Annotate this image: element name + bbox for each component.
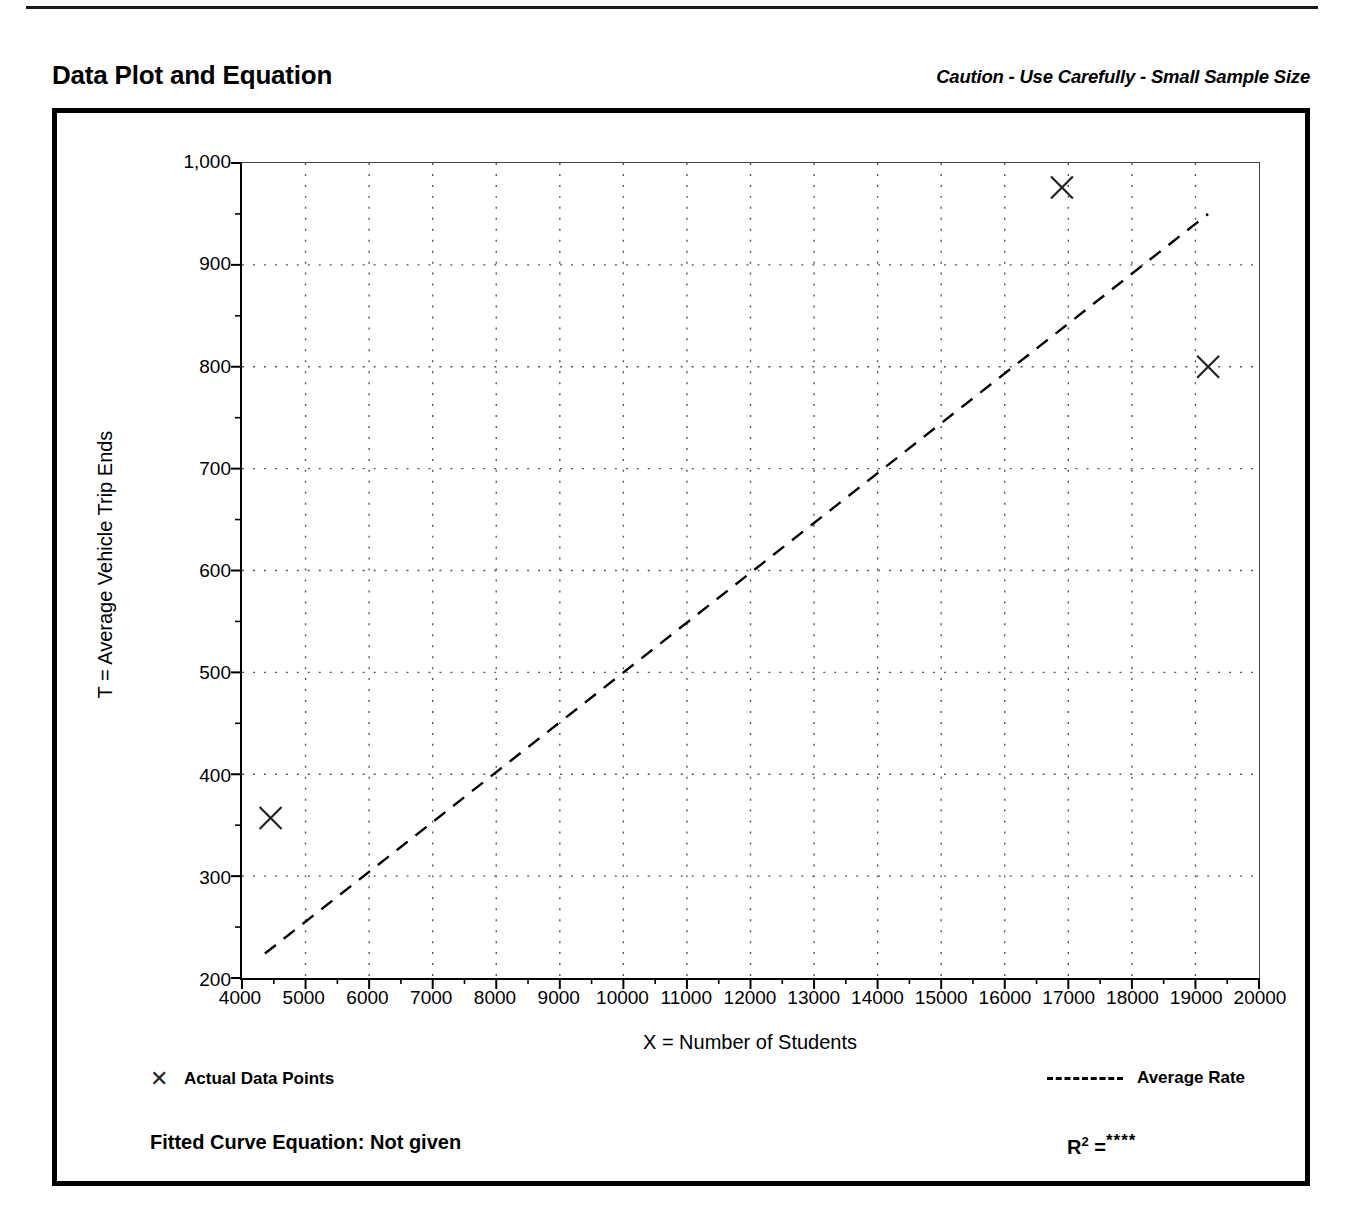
r2-stars: ****: [1106, 1131, 1136, 1150]
average-rate-line: [265, 214, 1208, 954]
x-tick-label: 7000: [410, 987, 452, 1009]
x-tick-label: 8000: [474, 987, 516, 1009]
y-tick-label: 1,000: [183, 151, 231, 173]
r2-prefix: R: [1067, 1136, 1081, 1158]
r2-exponent: 2: [1081, 1134, 1088, 1149]
header-row: Data Plot and Equation Caution - Use Car…: [52, 60, 1310, 100]
y-tick-label: 300: [199, 867, 231, 889]
x-tick-label: 18000: [1106, 987, 1159, 1009]
x-tick-label: 20000: [1234, 987, 1287, 1009]
x-tick-label: 15000: [915, 987, 968, 1009]
caution-note: Caution - Use Carefully - Small Sample S…: [936, 66, 1310, 88]
x-tick-label: 14000: [851, 987, 904, 1009]
fitted-curve-equation: Fitted Curve Equation: Not given: [150, 1131, 461, 1154]
data-layer: [242, 163, 1259, 978]
x-tick-label: 17000: [1042, 987, 1095, 1009]
x-tick-label: 6000: [346, 987, 388, 1009]
y-tick-label: 500: [199, 662, 231, 684]
plot-wrapper: T = Average Vehicle Trip Ends 2003004005…: [57, 113, 1305, 1181]
dashed-line-icon: [1047, 1077, 1123, 1080]
plot-frame: [240, 162, 1260, 980]
data-point-marker: [260, 807, 282, 829]
x-marker-icon: ✕: [150, 1068, 168, 1090]
y-tick-label: 600: [199, 560, 231, 582]
x-tick-label: 4000: [219, 987, 261, 1009]
x-tick-label: 16000: [979, 987, 1032, 1009]
x-tick-label: 9000: [538, 987, 580, 1009]
y-tick-label: 700: [199, 458, 231, 480]
top-divider-rule: [26, 6, 1318, 9]
legend-points-label: Actual Data Points: [184, 1069, 334, 1089]
data-point-marker: [1051, 176, 1073, 198]
chart-panel: T = Average Vehicle Trip Ends 2003004005…: [52, 108, 1310, 1186]
legend-rate-label: Average Rate: [1137, 1068, 1245, 1088]
x-axis-tick-labels: 4000500060007000800090001000011000120001…: [240, 987, 1260, 1017]
legend-average-rate: Average Rate: [1047, 1068, 1245, 1088]
y-tick-label: 800: [199, 356, 231, 378]
y-axis-title: T = Average Vehicle Trip Ends: [94, 265, 117, 865]
r-squared-value: R2 =****: [1067, 1131, 1136, 1159]
x-tick-label: 19000: [1170, 987, 1223, 1009]
x-tick-label: 13000: [787, 987, 840, 1009]
y-tick-label: 900: [199, 253, 231, 275]
y-tick-label: 400: [199, 765, 231, 787]
x-tick-label: 12000: [724, 987, 777, 1009]
x-tick-label: 5000: [283, 987, 325, 1009]
r2-equals: =: [1094, 1136, 1106, 1158]
page-title: Data Plot and Equation: [52, 60, 332, 91]
x-tick-label: 10000: [596, 987, 649, 1009]
x-axis-title: X = Number of Students: [240, 1031, 1260, 1054]
legend-actual-data-points: ✕ Actual Data Points: [150, 1068, 334, 1090]
x-tick-label: 11000: [661, 987, 712, 1009]
data-point-marker: [1197, 356, 1219, 378]
y-axis-tick-labels: 2003004005006007008009001,000: [157, 162, 231, 980]
